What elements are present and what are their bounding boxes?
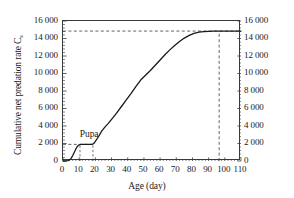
x-tick-label: 110 — [229, 165, 251, 174]
axis-ticks — [63, 21, 241, 161]
y-axis-title: Cumulative net predation rate Cs — [11, 5, 25, 155]
y-tick-label-right: 14 000 — [244, 33, 268, 42]
x-axis-title: Age (day) — [0, 181, 294, 192]
y-tick-label-right: 6 000 — [244, 103, 264, 112]
y-tick-label-left: 4 000 — [38, 121, 58, 130]
y-axis-title-text: Cumulative net predation rate C — [13, 38, 23, 155]
pupa-annotation-label: Pupa — [80, 129, 99, 139]
y-tick-label-left: 8 000 — [38, 86, 58, 95]
y-tick-label-right: 8 000 — [244, 86, 264, 95]
chart-figure: Cumulative net predation rate Cs 02 0004… — [0, 0, 294, 198]
y-tick-label-right: 12 000 — [244, 51, 268, 60]
y-tick-label-left: 2 000 — [38, 138, 58, 147]
annotation-lines — [63, 31, 241, 161]
y-tick-label-right: 10 000 — [244, 68, 268, 77]
plot-svg — [63, 21, 241, 161]
y-tick-label-left: 6 000 — [38, 103, 58, 112]
y-axis-title-subscript: s — [17, 35, 24, 37]
y-tick-label-right: 16 000 — [244, 16, 268, 25]
y-tick-label-left: 14 000 — [34, 33, 58, 42]
y-tick-label-left: 0 — [54, 156, 58, 165]
y-tick-label-left: 16 000 — [34, 16, 58, 25]
data-curve — [63, 31, 241, 161]
y-tick-label-right: 2 000 — [244, 138, 264, 147]
y-tick-label-left: 12 000 — [34, 51, 58, 60]
y-tick-label-left: 10 000 — [34, 68, 58, 77]
plot-area: Pupa — [62, 20, 240, 160]
y-tick-label-right: 4 000 — [244, 121, 264, 130]
